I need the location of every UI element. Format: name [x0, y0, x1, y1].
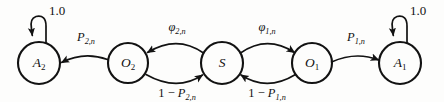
edge-o1-to-a1 [332, 56, 379, 62]
edge-s-to-o1 [241, 44, 295, 53]
node-s[interactable]: S [201, 42, 243, 84]
edge-label-s-to-o2: φ2,n [168, 20, 185, 36]
edge-label-o1-to-s: 1 − P1,n [248, 86, 285, 102]
a2-self-loop-path [31, 16, 46, 43]
node-a1-label: A1 [393, 55, 407, 71]
node-s-label: S [219, 55, 226, 70]
state-diagram-canvas: A2 O2 S O1 A1 P2,n φ2,n 1 − P2,n φ1,n 1 … [0, 0, 444, 102]
edge-label-o2-to-a2: P2,n [76, 30, 95, 46]
a1-self-loop-path [392, 16, 407, 43]
edge-o2-to-s [146, 75, 203, 84]
edge-o1-to-s [241, 75, 296, 84]
node-o1-label: O1 [305, 55, 319, 71]
node-a1[interactable]: A1 [379, 42, 421, 84]
node-a2[interactable]: A2 [18, 42, 60, 84]
a2-self-loop-label: 1.0 [49, 3, 65, 18]
edge-label-o1-to-a1: P1,n [346, 30, 365, 46]
a1-self-loop-label: 1.0 [410, 3, 426, 18]
node-o2-label: O2 [121, 55, 135, 71]
edge-label-o2-to-s: 1 − P2,n [158, 86, 195, 102]
node-o1[interactable]: O1 [292, 43, 332, 83]
edge-label-s-to-o1: φ1,n [258, 20, 275, 36]
node-a2-label: A2 [32, 55, 46, 71]
edge-s-to-o2 [148, 44, 204, 53]
node-o2[interactable]: O2 [108, 43, 148, 83]
state-diagram-figure: A2 O2 S O1 A1 P2,n φ2,n 1 − P2,n φ1,n 1 … [0, 0, 444, 102]
edge-o2-to-a2 [62, 56, 108, 63]
